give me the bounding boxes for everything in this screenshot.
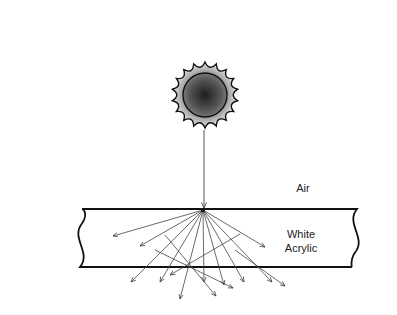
light-ray (203, 210, 204, 282)
material-label-line2: Acrylic (278, 241, 324, 255)
scattered-rays (113, 210, 285, 299)
light-ray (180, 210, 203, 299)
light-ray (203, 210, 265, 247)
light-ray (170, 234, 240, 275)
material-label-line1: White (278, 227, 324, 241)
scatter-origin-dot (201, 208, 205, 212)
diagram-canvas (0, 0, 397, 315)
air-label: Air (288, 181, 318, 195)
light-ray (235, 250, 285, 286)
light-ray (155, 250, 233, 288)
light-ray (165, 235, 216, 296)
sun-icon (173, 62, 238, 128)
light-ray (140, 210, 203, 246)
